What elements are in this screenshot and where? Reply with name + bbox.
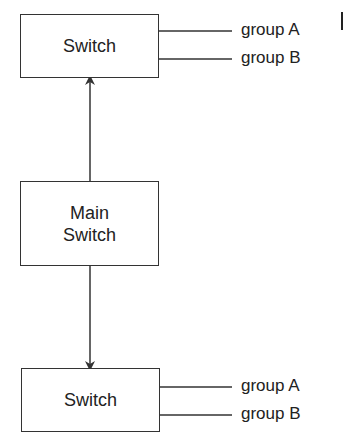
top-group-a-label: group A bbox=[241, 21, 300, 39]
top-group-b-label: group B bbox=[241, 49, 301, 67]
main-switch-label-line2: Switch bbox=[63, 224, 116, 246]
bottom-switch-box: Switch bbox=[21, 368, 160, 432]
main-switch-label-line1: Main bbox=[70, 202, 109, 224]
bottom-group-a-label: group A bbox=[241, 377, 300, 395]
top-switch-box: Switch bbox=[20, 14, 159, 78]
bottom-switch-label: Switch bbox=[64, 389, 117, 411]
top-switch-label: Switch bbox=[63, 35, 116, 57]
main-switch-box: Main Switch bbox=[20, 181, 159, 266]
bottom-group-b-label: group B bbox=[241, 405, 301, 423]
